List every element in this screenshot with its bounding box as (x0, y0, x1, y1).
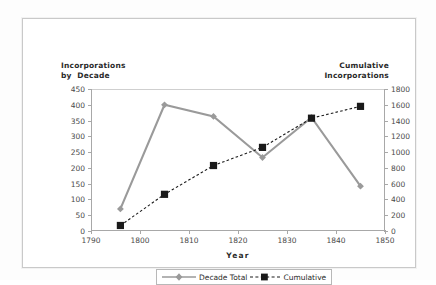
series-marker-square (259, 144, 266, 151)
chart-legend: Decade Total Cumulative (156, 269, 332, 285)
x-axis-tick-label: 1820 (228, 236, 247, 245)
y-axis-left-tick-label: 100 (71, 195, 85, 204)
y-axis-right-tick-label: 1400 (391, 116, 410, 125)
legend-label-decade-total: Decade Total (199, 273, 247, 282)
y-axis-right-tick-label: 1600 (391, 100, 410, 109)
chart-frame: Incorporationsby Decade CumulativeIncorp… (22, 18, 416, 268)
x-axis-tick-label: 1810 (179, 236, 198, 245)
series-marker-diamond (161, 101, 168, 108)
y-axis-right-tick-label: 1200 (391, 132, 410, 141)
series-marker-square (117, 222, 124, 229)
series-line (120, 105, 360, 209)
right-axis-title-line2: Incorporations (324, 71, 389, 80)
y-axis-right-tick-label: 0 (391, 227, 396, 236)
legend-label-cumulative: Cumulative (283, 273, 326, 282)
x-axis-tick-label: 1840 (326, 236, 345, 245)
y-axis-right-tick-label: 1800 (391, 85, 410, 94)
right-axis-title-line1: Cumulative (339, 61, 389, 70)
series-cumulative (117, 103, 364, 229)
y-axis-right-tick-label: 1000 (391, 148, 410, 157)
y-axis-left-tick-label: 400 (71, 100, 85, 109)
x-axis-tick-label: 1850 (375, 236, 394, 245)
y-axis-left-tick-label: 450 (71, 85, 85, 94)
series-plot (91, 89, 385, 231)
left-axis-title: Incorporationsby Decade (61, 61, 126, 80)
x-axis-tick (385, 230, 386, 234)
y-axis-left-tick-label: 150 (71, 179, 85, 188)
plot-area: 050100150200250300350400450 020040060080… (91, 89, 385, 231)
legend-swatch-cumulative (250, 272, 280, 282)
x-axis-tick-label: 1830 (277, 236, 296, 245)
series-decade-total (117, 101, 364, 212)
x-axis-label: Year (91, 251, 385, 260)
y-axis-left-tick-label: 0 (80, 227, 85, 236)
y-axis-left-tick-label: 50 (75, 211, 85, 220)
y-axis-left-tick-label: 350 (71, 116, 85, 125)
y-axis-left-tick-label: 250 (71, 148, 85, 157)
legend-swatch-decade-total (162, 272, 196, 282)
x-axis-tick-label: 1800 (130, 236, 149, 245)
y-axis-right-tick-label: 800 (391, 163, 405, 172)
series-marker-diamond (117, 206, 124, 213)
left-axis-title-line1: Incorporations (61, 61, 126, 70)
left-axis-title-line2: by Decade (61, 71, 110, 80)
series-marker-square (308, 115, 315, 122)
y-axis-right-tick-label: 200 (391, 211, 405, 220)
series-marker-square (210, 162, 217, 169)
y-axis-right-tick-label: 600 (391, 179, 405, 188)
y-axis-left-tick-label: 200 (71, 163, 85, 172)
y-axis-left-tick-label: 300 (71, 132, 85, 141)
x-axis-tick-label: 1790 (81, 236, 100, 245)
series-marker-square (357, 103, 364, 110)
right-axis-title: CumulativeIncorporations (324, 61, 389, 80)
y-axis-right-tick-label: 400 (391, 195, 405, 204)
series-marker-square (161, 191, 168, 198)
